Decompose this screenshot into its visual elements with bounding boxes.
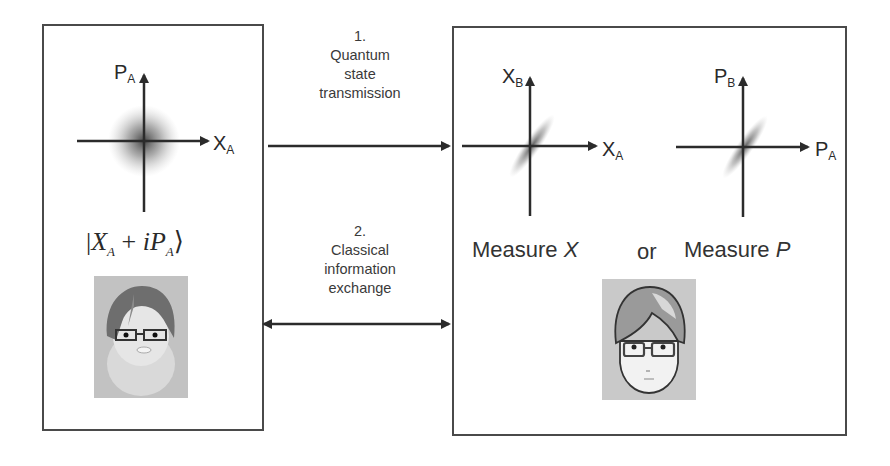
alice-p-axis-label: PA xyxy=(114,62,135,85)
step1-caption: 1. Quantum state transmission xyxy=(290,27,430,103)
cvqkd-diagram: PA XA |XA + iPA⟩ 1. Quantum state transm… xyxy=(0,0,890,466)
measure-p-label: Measure P xyxy=(684,239,790,261)
ket-angle: ⟩ xyxy=(174,227,184,256)
step2-line2: information xyxy=(290,260,430,279)
label-text: X xyxy=(502,65,515,87)
bob-p-axes xyxy=(676,78,808,217)
label-sub: A xyxy=(615,149,623,163)
step2-line1: Classical xyxy=(290,241,430,260)
bob-xb-axis-label: XB xyxy=(502,66,523,89)
measure-var: P xyxy=(776,237,791,262)
ket-x: X xyxy=(91,227,107,256)
label-text: P xyxy=(714,65,727,87)
alice-state-ket: |XA + iPA⟩ xyxy=(86,229,184,258)
step1-line1: Quantum xyxy=(290,46,430,65)
step1-number: 1. xyxy=(290,27,430,46)
label-sub: B xyxy=(727,76,735,90)
ket-p: P xyxy=(150,227,166,256)
alice-avatar xyxy=(94,276,188,398)
label-sub: B xyxy=(515,76,523,90)
bob-xa-axis-label: XA xyxy=(602,139,623,162)
step2-caption: 2. Classical information exchange xyxy=(290,222,430,298)
bob-pb-axis-label: PB xyxy=(714,66,735,89)
ket-plus: + xyxy=(115,227,143,256)
step2-line3: exchange xyxy=(290,279,430,298)
step1-line2: state xyxy=(290,65,430,84)
label-text: X xyxy=(213,132,226,154)
label-sub: A xyxy=(226,143,234,157)
or-text: or xyxy=(637,239,657,264)
alice-x-axis-label: XA xyxy=(213,133,234,156)
ket-x-sub: A xyxy=(107,244,115,259)
bob-pa-axis-label: PA xyxy=(815,139,836,162)
label-text: X xyxy=(602,138,615,160)
step2-number: 2. xyxy=(290,222,430,241)
label-text: P xyxy=(114,61,127,83)
or-label: or xyxy=(637,241,657,263)
ket-p-sub: A xyxy=(166,244,174,259)
measure-x-label: Measure X xyxy=(472,239,578,261)
label-text: P xyxy=(815,138,828,160)
label-sub: A xyxy=(127,72,135,86)
measure-word: Measure xyxy=(684,237,776,262)
label-sub: A xyxy=(828,149,836,163)
measure-var: X xyxy=(564,237,579,262)
bob-avatar xyxy=(602,279,696,400)
bob-x-axes xyxy=(462,78,596,216)
step1-line3: transmission xyxy=(290,84,430,103)
ket-i: i xyxy=(143,227,150,256)
measure-word: Measure xyxy=(472,237,564,262)
